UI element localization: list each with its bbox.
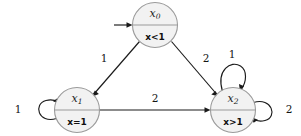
self-loop-x2-right-path [253, 102, 272, 122]
self-loop-x2-top[interactable]: 1 [221, 48, 246, 92]
state-node-x0[interactable]: x0 x<1 [133, 3, 178, 48]
transition-x0-to-x1-line [94, 42, 140, 95]
transition-x0-to-x1[interactable]: 1 [91, 42, 139, 98]
state-node-x0-predicate: x<1 [145, 32, 165, 42]
initial-arrow-head [127, 22, 133, 27]
state-node-x0-name-subscript: 0 [156, 12, 161, 21]
self-loop-x2-top-label: 1 [229, 48, 236, 60]
state-node-x2[interactable]: x2 x>1 [211, 88, 256, 133]
transition-x0-to-x2[interactable]: 2 [172, 42, 219, 97]
transition-x0-to-x1-label: 1 [101, 52, 108, 64]
transition-x0-to-x2-label: 2 [203, 52, 210, 64]
state-node-x2-predicate: x>1 [223, 117, 243, 127]
self-loop-x1[interactable]: 1 [15, 98, 61, 119]
self-loop-x2-right-label: 2 [286, 103, 293, 115]
self-loop-x2-right[interactable]: 2 [251, 102, 293, 123]
self-loop-x1-label: 1 [15, 103, 22, 115]
transition-x0-to-x2-line [172, 42, 217, 95]
transition-x1-to-x2-arrowhead [205, 107, 211, 112]
initial-arrow [114, 22, 133, 27]
state-machine-diagram: 1 2 2 1 1 2 [0, 0, 301, 136]
state-node-x1-name-subscript: 1 [78, 97, 83, 106]
state-node-x1[interactable]: x1 x=1 [55, 88, 100, 133]
state-node-x1-predicate: x=1 [67, 117, 87, 127]
transition-x1-to-x2-label: 2 [152, 92, 159, 104]
state-node-x2-name-subscript: 2 [233, 97, 239, 106]
diagram-canvas: 1 2 2 1 1 2 [0, 0, 301, 136]
transition-x1-to-x2[interactable]: 2 [100, 92, 211, 113]
